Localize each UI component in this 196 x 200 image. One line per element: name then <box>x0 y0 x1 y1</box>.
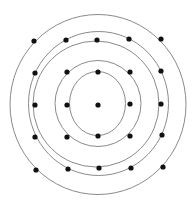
dot-node <box>33 167 38 172</box>
dot-node <box>95 102 100 107</box>
dot-node <box>95 133 100 138</box>
concentric-rings-diagram <box>0 0 196 200</box>
dot-node <box>95 69 100 74</box>
dot-node <box>32 102 37 107</box>
dot-node <box>160 164 165 169</box>
dot-node <box>64 134 69 139</box>
dot-node <box>158 68 163 73</box>
dot-node <box>158 36 163 41</box>
dot-node <box>65 166 70 171</box>
dot-node <box>32 70 37 75</box>
dots-group <box>31 36 165 172</box>
dot-node <box>31 38 36 43</box>
dot-node <box>158 101 163 106</box>
dot-node <box>96 165 101 170</box>
dot-node <box>127 69 132 74</box>
dot-node <box>64 102 69 107</box>
dot-node <box>64 69 69 74</box>
dot-node <box>127 101 132 106</box>
dot-node <box>127 133 132 138</box>
dot-node <box>63 37 68 42</box>
dot-node <box>159 132 164 137</box>
dot-node <box>126 36 131 41</box>
dot-node <box>128 165 133 170</box>
dot-node <box>32 134 37 139</box>
dot-node <box>94 37 99 42</box>
